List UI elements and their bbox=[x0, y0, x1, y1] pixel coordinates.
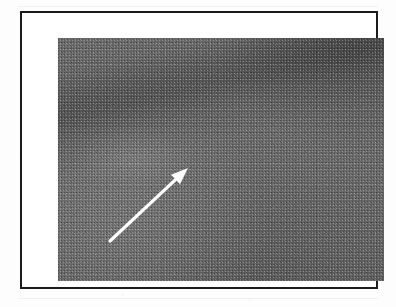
scan-artifact-streak-bottom bbox=[18, 298, 378, 299]
scanned-page bbox=[0, 0, 396, 307]
figure-frame-border bbox=[20, 11, 378, 289]
light-smudge bbox=[71, 125, 195, 188]
corner-shadow bbox=[221, 38, 384, 147]
photograph bbox=[58, 38, 384, 281]
scan-artifact-streak-top bbox=[18, 6, 378, 7]
